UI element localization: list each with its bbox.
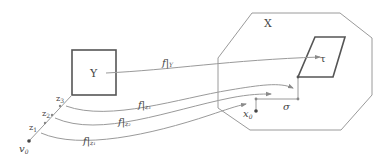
space-x-octagon: [218, 13, 372, 130]
segment-v0-to-y: [29, 95, 72, 141]
sigma-vertex-point: [297, 98, 300, 101]
map-f-z2-label: f|z₂: [117, 116, 131, 128]
point-z3-label: z3: [56, 94, 64, 104]
mapping-diagram: X Y τ σ x0 v0 z1 z2 z3 f|Y f|z₃ f|z₂: [0, 0, 391, 157]
sigma-vertex-point: [297, 76, 300, 79]
sigma-vertex-point: [255, 98, 258, 101]
map-f-restricted-z3: [66, 85, 293, 112]
point-x0: [254, 109, 258, 113]
point-v0-label: v0: [19, 143, 29, 155]
point-v0: [27, 139, 31, 143]
cell-tau-label: τ: [320, 53, 326, 64]
space-y-label: Y: [89, 67, 98, 80]
map-f-y-label: f|Y: [161, 57, 174, 69]
map-f-restricted-y: [106, 57, 320, 73]
point-z2: [51, 114, 53, 116]
map-f-z3-label: f|z₃: [137, 99, 151, 111]
point-z3: [59, 105, 61, 107]
space-x-label: X: [264, 17, 272, 30]
point-x0-label: x0: [243, 108, 253, 120]
map-f-restricted-z2: [55, 94, 271, 125]
map-f-z1-label: f|z₁: [82, 135, 96, 147]
point-z2-label: z2: [42, 109, 50, 119]
path-sigma-label: σ: [283, 101, 291, 112]
point-z1-label: z1: [29, 123, 37, 133]
point-z1: [44, 122, 46, 124]
